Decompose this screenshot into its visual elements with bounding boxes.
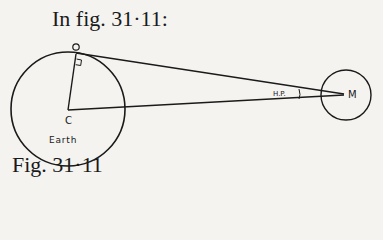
center-label: C (65, 115, 72, 126)
radius-line-oc (68, 54, 76, 110)
right-angle-mark (76, 59, 82, 66)
moon-label: M (348, 89, 357, 100)
figure-caption: Fig. 31·11 (12, 152, 103, 178)
center-line-cm (68, 95, 344, 110)
angle-arc (299, 89, 300, 99)
moon-circle (321, 70, 371, 120)
angle-label: H.P. (273, 90, 286, 98)
earth-label: Earth (49, 135, 77, 145)
tangent-line-om (76, 53, 344, 94)
observer-marker (73, 44, 79, 50)
